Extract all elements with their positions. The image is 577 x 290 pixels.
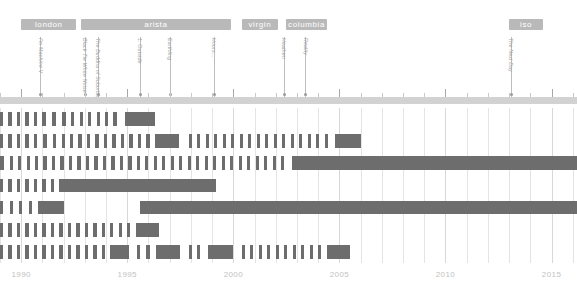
timeline-segment	[76, 223, 79, 237]
timeline-row[interactable]	[0, 179, 577, 193]
era-band-label: virgin	[249, 21, 272, 29]
timeline-segment	[146, 245, 149, 259]
timeline-segment	[18, 156, 21, 170]
timeline-segment	[325, 134, 328, 148]
era-band-virgin[interactable]: virgin	[242, 19, 278, 30]
timeline-segment	[25, 245, 28, 259]
timeline-segment	[179, 156, 182, 170]
axis-tick-minor	[403, 93, 404, 97]
timeline-segment	[128, 156, 131, 170]
timeline-row[interactable]	[0, 223, 577, 237]
album-marker-label: Black Tie White Noise	[82, 38, 88, 93]
timeline-segment	[214, 134, 217, 148]
timeline-segment	[250, 245, 253, 259]
timeline-row[interactable]	[0, 134, 577, 148]
timeline-segment	[34, 179, 37, 193]
timeline-segment	[189, 245, 192, 259]
timeline-segment	[51, 179, 54, 193]
timeline-segment	[51, 223, 54, 237]
axis-tick-minor	[170, 93, 171, 97]
era-band-arista[interactable]: arista	[81, 19, 232, 30]
timeline-segment	[222, 156, 225, 170]
timeline-segment	[85, 223, 88, 237]
timeline-segment	[59, 245, 62, 259]
timeline-segment	[0, 245, 3, 259]
timeline-segment	[17, 223, 20, 237]
album-marker-label: Earthling	[167, 38, 173, 60]
timeline-segment	[282, 134, 285, 148]
timeline-segment	[327, 245, 350, 259]
timeline-row[interactable]	[0, 245, 577, 259]
album-marker-label: The Buddha of Suburbia	[95, 38, 101, 99]
timeline-segment	[10, 201, 13, 215]
axis-tick-minor	[191, 93, 192, 97]
timeline-segment	[274, 134, 277, 148]
era-band-london[interactable]: london	[21, 19, 76, 30]
timeline-segment	[308, 134, 311, 148]
timeline-segment	[34, 245, 37, 259]
timeline-segment	[310, 245, 313, 259]
timeline-segment	[68, 245, 71, 259]
era-band-columbia[interactable]: columbia	[286, 19, 326, 30]
timeline-segment	[196, 156, 199, 170]
timeline-segment	[42, 112, 45, 126]
axis-tick-major	[21, 89, 22, 97]
timeline-segment	[43, 134, 46, 148]
timeline-segment	[97, 112, 100, 126]
timeline-segment	[146, 134, 149, 148]
axis-tick-major	[445, 89, 446, 97]
timeline-segment	[85, 245, 88, 259]
axis-tick-minor	[361, 93, 362, 97]
timeline-segment	[25, 134, 28, 148]
axis-tick-minor	[42, 93, 43, 97]
timeline-segment	[171, 156, 174, 170]
album-marker-dot	[283, 93, 286, 96]
timeline-segment	[0, 179, 3, 193]
axis-tick-minor	[424, 93, 425, 97]
axis-tick-minor	[488, 93, 489, 97]
timeline-segment	[71, 112, 74, 126]
timeline-segment	[223, 134, 226, 148]
timeline-row[interactable]: Dorsey	[0, 201, 577, 215]
timeline-row[interactable]	[0, 112, 577, 126]
era-band-iso[interactable]: iso	[509, 19, 543, 30]
timeline-segment	[230, 156, 233, 170]
timeline-segment	[155, 134, 179, 148]
year-label-2000: 2000	[224, 270, 243, 279]
timeline-chart: londonaristavirgincolumbiaiso I'm Machin…	[0, 0, 577, 290]
timeline-segment	[231, 134, 234, 148]
timeline-segment	[119, 223, 122, 237]
timeline-segment	[70, 134, 73, 148]
axis-tick-minor	[509, 93, 510, 97]
timeline-segment	[299, 134, 302, 148]
album-marker-dot	[510, 93, 513, 96]
timeline-segment	[276, 245, 279, 259]
axis-tick-major	[339, 89, 340, 97]
timeline-segment	[110, 245, 129, 259]
timeline-segment	[17, 134, 20, 148]
year-label-1990: 1990	[12, 270, 31, 279]
timeline-segment	[88, 112, 91, 126]
timeline-segment	[248, 134, 251, 148]
album-marker-dot	[213, 93, 216, 96]
timeline-segment	[189, 134, 192, 148]
timeline-segment	[273, 156, 276, 170]
timeline-segment	[25, 223, 28, 237]
timeline-segment	[62, 112, 66, 126]
plot-area: Dorsey	[0, 108, 577, 263]
timeline-row[interactable]	[0, 156, 577, 170]
album-marker-label: Hours...	[211, 38, 217, 58]
axis-tick-minor	[297, 93, 298, 97]
timeline-segment	[240, 134, 243, 148]
timeline-segment	[291, 134, 294, 148]
timeline-segment	[162, 156, 165, 170]
timeline-segment	[52, 156, 55, 170]
timeline-segment	[205, 156, 208, 170]
timeline-segment	[137, 156, 140, 170]
timeline-segment	[8, 245, 11, 259]
timeline-segment	[154, 156, 157, 170]
timeline-segment	[197, 245, 200, 259]
timeline-axis-rail	[0, 97, 577, 104]
timeline-segment	[208, 245, 233, 259]
album-marker-label: I'm Machine V	[38, 38, 44, 73]
